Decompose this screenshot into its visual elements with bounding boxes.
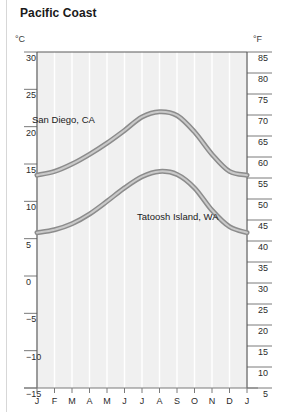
tick-label-fahrenheit: 55 [258, 179, 268, 189]
tick-label-celsius: 20 [26, 128, 36, 138]
tick-label-fahrenheit: 20 [258, 326, 268, 336]
tick-label-fahrenheit: 15 [258, 347, 268, 357]
tick-label-fahrenheit: 45 [258, 221, 268, 231]
tick-label-celsius: −10 [26, 352, 41, 362]
tick-label-fahrenheit: 5 [263, 389, 268, 399]
left-axis-ticks [24, 52, 37, 388]
chart-page: Pacific Coast °C °F 302520151050−5−10−15… [0, 0, 289, 412]
month-label: N [209, 396, 216, 406]
tick-label-celsius: 30 [26, 53, 36, 63]
tick-label-celsius: 25 [26, 90, 36, 100]
tick-label-fahrenheit: 35 [258, 263, 268, 273]
tick-label-celsius: 10 [26, 202, 36, 212]
tick-label-fahrenheit: 50 [258, 200, 268, 210]
series-annotation: San Diego, CA [32, 114, 96, 125]
month-label: J [122, 396, 127, 406]
month-label: A [86, 396, 92, 406]
tick-label-celsius: 5 [26, 240, 31, 250]
tick-label-fahrenheit: 10 [258, 368, 268, 378]
tick-label-fahrenheit: 80 [258, 74, 268, 84]
x-axis-ticks [37, 388, 247, 393]
tick-label-fahrenheit: 40 [258, 242, 268, 252]
tick-label-fahrenheit: 60 [258, 158, 268, 168]
month-label: J [35, 396, 40, 406]
climate-line-chart: 302520151050−5−10−15 8580757065605550454… [0, 0, 289, 412]
month-label: D [226, 396, 233, 406]
month-label: A [156, 396, 162, 406]
chart-container: 302520151050−5−10−15 8580757065605550454… [0, 0, 289, 412]
tick-label-celsius: 0 [26, 277, 31, 287]
tick-label-fahrenheit: 25 [258, 305, 268, 315]
tick-label-fahrenheit: 85 [258, 53, 268, 63]
month-label: J [140, 396, 145, 406]
month-label: M [68, 396, 76, 406]
month-label: S [174, 396, 180, 406]
series-annotation: Tatoosh Island, WA [137, 211, 219, 222]
tick-label-celsius: 15 [26, 165, 36, 175]
month-label: M [103, 396, 111, 406]
month-label: J [245, 396, 250, 406]
tick-label-fahrenheit: 70 [258, 116, 268, 126]
right-axis-labels: 858075706560555045403530252015105 [258, 53, 268, 399]
tick-label-fahrenheit: 75 [258, 95, 268, 105]
tick-label-fahrenheit: 30 [258, 284, 268, 294]
x-axis-labels: JFMAMJJASONDJ [35, 396, 250, 406]
tick-label-celsius: −5 [26, 314, 36, 324]
tick-label-fahrenheit: 65 [258, 137, 268, 147]
month-label: F [52, 396, 58, 406]
month-label: O [191, 396, 198, 406]
